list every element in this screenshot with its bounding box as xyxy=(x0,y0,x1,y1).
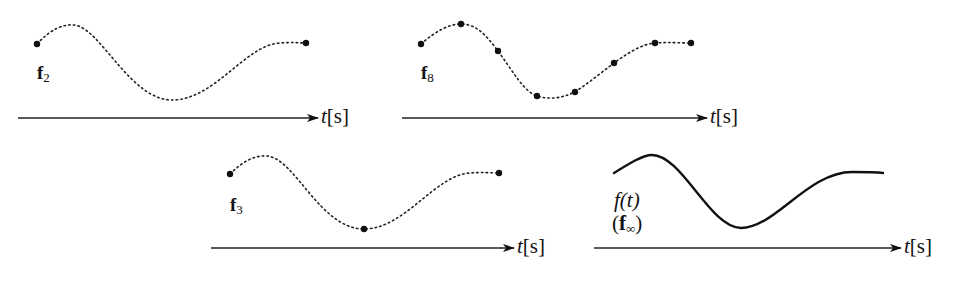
sample-point xyxy=(652,40,658,46)
sample-point xyxy=(227,171,233,177)
sample-point xyxy=(495,48,501,54)
axis-unit: [s] xyxy=(327,104,349,128)
label-f8: f8 xyxy=(421,63,434,84)
label-finf-sub: ∞ xyxy=(626,221,635,236)
axis-unit: [s] xyxy=(523,234,545,258)
label-f8-sub: 8 xyxy=(427,70,434,85)
label-f3: f3 xyxy=(230,195,243,216)
curve-f3 xyxy=(230,156,499,229)
label-f3-sub: 3 xyxy=(236,202,243,217)
curve-continuous xyxy=(614,155,883,228)
curve-f2 xyxy=(37,25,306,100)
label-finf: (f∞) xyxy=(612,213,642,235)
axis-label-f3: t[s] xyxy=(517,236,545,257)
sample-point xyxy=(611,60,617,66)
label-f2-sub: 2 xyxy=(43,70,50,85)
label-f2: f2 xyxy=(37,63,50,84)
sample-point xyxy=(458,21,464,27)
axis-label-f2: t[s] xyxy=(321,106,349,127)
panel-f3 xyxy=(211,156,514,248)
axis-label-f8: t[s] xyxy=(710,106,738,127)
label-finf-main: f xyxy=(619,211,626,235)
axis-label-finf: t[s] xyxy=(904,236,932,257)
axis-unit: [s] xyxy=(910,234,932,258)
sample-point xyxy=(534,93,540,99)
label-ft: f(t) xyxy=(614,190,640,211)
sample-point xyxy=(572,89,578,95)
sample-point xyxy=(418,41,424,47)
axis-unit: [s] xyxy=(716,104,738,128)
sample-point xyxy=(496,170,502,176)
diagram-canvas xyxy=(0,0,955,281)
sample-point xyxy=(361,226,367,232)
panel-f8 xyxy=(402,21,707,118)
panel-f2 xyxy=(18,25,318,118)
label-ft-text: f(t) xyxy=(614,188,640,212)
sample-point xyxy=(34,41,40,47)
sample-point xyxy=(688,40,694,46)
sample-point xyxy=(303,40,309,46)
curve-f8 xyxy=(421,24,691,98)
